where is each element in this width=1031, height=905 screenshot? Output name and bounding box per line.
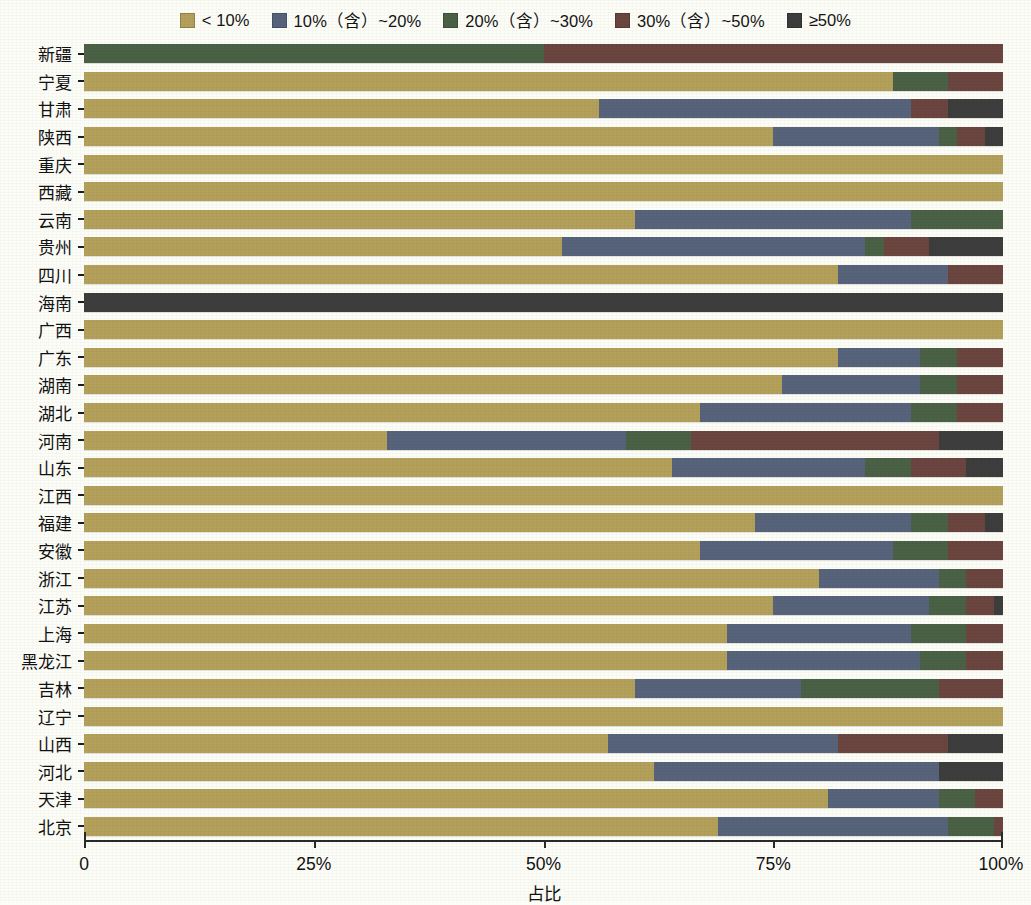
bar-segment[interactable] <box>985 127 1003 146</box>
stacked-bar[interactable] <box>84 596 1003 615</box>
bar-segment[interactable] <box>562 237 865 256</box>
bar-segment[interactable] <box>948 265 1003 284</box>
stacked-bar[interactable] <box>84 651 1003 670</box>
bar-segment[interactable] <box>84 431 387 450</box>
bar-segment[interactable] <box>84 569 819 588</box>
bar-segment[interactable] <box>84 624 727 643</box>
stacked-bar[interactable] <box>84 458 1003 477</box>
bar-segment[interactable] <box>626 431 690 450</box>
stacked-bar[interactable] <box>84 44 1003 63</box>
bar-segment[interactable] <box>727 624 911 643</box>
bar-segment[interactable] <box>911 99 948 118</box>
bar-segment[interactable] <box>893 541 948 560</box>
bar-segment[interactable] <box>84 127 773 146</box>
bar-segment[interactable] <box>84 734 608 753</box>
bar-segment[interactable] <box>84 403 700 422</box>
stacked-bar[interactable] <box>84 486 1003 505</box>
bar-segment[interactable] <box>84 707 1003 726</box>
bar-segment[interactable] <box>544 44 1004 63</box>
bar-segment[interactable] <box>608 734 838 753</box>
bar-segment[interactable] <box>865 237 883 256</box>
bar-segment[interactable] <box>939 127 957 146</box>
stacked-bar[interactable] <box>84 707 1003 726</box>
bar-segment[interactable] <box>838 734 948 753</box>
stacked-bar[interactable] <box>84 265 1003 284</box>
bar-segment[interactable] <box>84 651 727 670</box>
bar-segment[interactable] <box>654 762 939 781</box>
bar-segment[interactable] <box>939 431 1003 450</box>
bar-segment[interactable] <box>939 789 976 808</box>
bar-segment[interactable] <box>948 541 1003 560</box>
bar-segment[interactable] <box>948 817 994 836</box>
bar-segment[interactable] <box>957 127 985 146</box>
legend-item-1[interactable]: 10%（含）~20% <box>272 8 422 32</box>
legend-item-0[interactable]: < 10% <box>180 11 250 30</box>
bar-segment[interactable] <box>985 513 1003 532</box>
bar-segment[interactable] <box>773 596 929 615</box>
bar-segment[interactable] <box>84 513 755 532</box>
bar-segment[interactable] <box>84 596 773 615</box>
bar-segment[interactable] <box>948 99 1003 118</box>
bar-segment[interactable] <box>884 237 930 256</box>
bar-segment[interactable] <box>939 762 1003 781</box>
bar-segment[interactable] <box>84 265 838 284</box>
bar-segment[interactable] <box>920 651 966 670</box>
bar-segment[interactable] <box>920 348 957 367</box>
bar-segment[interactable] <box>966 569 1003 588</box>
bar-segment[interactable] <box>84 293 1003 312</box>
bar-segment[interactable] <box>911 210 1003 229</box>
bar-segment[interactable] <box>691 431 939 450</box>
bar-segment[interactable] <box>966 651 1003 670</box>
stacked-bar[interactable] <box>84 513 1003 532</box>
stacked-bar[interactable] <box>84 817 1003 836</box>
bar-segment[interactable] <box>994 596 1003 615</box>
bar-segment[interactable] <box>700 541 893 560</box>
bar-segment[interactable] <box>865 458 911 477</box>
bar-segment[interactable] <box>929 596 966 615</box>
bar-segment[interactable] <box>84 789 828 808</box>
stacked-bar[interactable] <box>84 127 1003 146</box>
bar-segment[interactable] <box>84 44 544 63</box>
stacked-bar[interactable] <box>84 624 1003 643</box>
bar-segment[interactable] <box>84 99 599 118</box>
bar-segment[interactable] <box>700 403 911 422</box>
stacked-bar[interactable] <box>84 789 1003 808</box>
stacked-bar[interactable] <box>84 375 1003 394</box>
bar-segment[interactable] <box>387 431 626 450</box>
bar-segment[interactable] <box>828 789 938 808</box>
bar-segment[interactable] <box>84 155 1003 174</box>
bar-segment[interactable] <box>957 403 1003 422</box>
bar-segment[interactable] <box>84 486 1003 505</box>
bar-segment[interactable] <box>773 127 938 146</box>
stacked-bar[interactable] <box>84 431 1003 450</box>
legend-item-3[interactable]: 30%（含）~50% <box>615 8 765 32</box>
bar-segment[interactable] <box>84 679 635 698</box>
bar-segment[interactable] <box>911 513 948 532</box>
stacked-bar[interactable] <box>84 293 1003 312</box>
bar-segment[interactable] <box>84 237 562 256</box>
bar-segment[interactable] <box>966 458 1003 477</box>
bar-segment[interactable] <box>84 348 838 367</box>
stacked-bar[interactable] <box>84 155 1003 174</box>
stacked-bar[interactable] <box>84 541 1003 560</box>
legend-item-4[interactable]: ≥50% <box>787 11 851 30</box>
bar-segment[interactable] <box>782 375 920 394</box>
bar-segment[interactable] <box>635 679 800 698</box>
bar-segment[interactable] <box>838 265 948 284</box>
bar-segment[interactable] <box>84 375 782 394</box>
stacked-bar[interactable] <box>84 679 1003 698</box>
bar-segment[interactable] <box>84 817 718 836</box>
bar-segment[interactable] <box>939 569 967 588</box>
bar-segment[interactable] <box>975 789 1003 808</box>
bar-segment[interactable] <box>911 458 966 477</box>
bar-segment[interactable] <box>948 513 985 532</box>
bar-segment[interactable] <box>801 679 939 698</box>
bar-segment[interactable] <box>939 679 1003 698</box>
bar-segment[interactable] <box>84 72 893 91</box>
bar-segment[interactable] <box>929 237 1003 256</box>
bar-segment[interactable] <box>893 72 948 91</box>
bar-segment[interactable] <box>84 541 700 560</box>
bar-segment[interactable] <box>911 624 966 643</box>
stacked-bar[interactable] <box>84 348 1003 367</box>
bar-segment[interactable] <box>957 375 1003 394</box>
